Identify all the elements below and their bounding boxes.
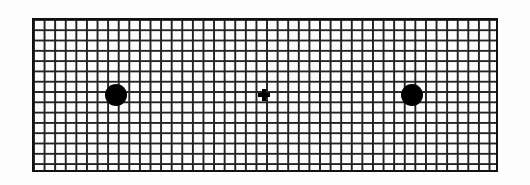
left-dot-marker — [105, 84, 127, 106]
fixation-cross-icon — [258, 89, 270, 101]
right-dot-marker — [401, 84, 423, 106]
